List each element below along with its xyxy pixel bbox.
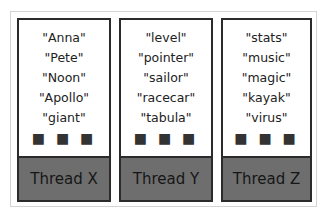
thread-x-panel: "Anna" "Pete" "Noon" "Apollo" "giant" ■ … <box>17 18 111 202</box>
list-item: "kayak" <box>242 88 290 108</box>
ellipsis: ■ ■ ■ <box>32 130 96 146</box>
list-item: "level" <box>145 28 186 48</box>
list-item: "giant" <box>42 108 85 128</box>
thread-z-panel: "stats" "music" "magic" "kayak" "virus" … <box>221 18 312 202</box>
list-item: "pointer" <box>138 48 194 68</box>
list-item: "Pete" <box>45 48 84 68</box>
thread-y-panel: "level" "pointer" "sailor" "racecar" "ta… <box>119 18 213 202</box>
thread-label: Thread X <box>19 156 109 200</box>
word-list: "Anna" "Pete" "Noon" "Apollo" "giant" ■ … <box>19 20 109 160</box>
ellipsis: ■ ■ ■ <box>134 130 198 146</box>
thread-label: Thread Z <box>223 156 310 200</box>
list-item: "Anna" <box>42 28 86 48</box>
list-item: "virus" <box>246 108 288 128</box>
list-item: "Noon" <box>42 68 86 88</box>
thread-label: Thread Y <box>121 156 211 200</box>
word-list: "stats" "music" "magic" "kayak" "virus" … <box>223 20 310 160</box>
word-list: "level" "pointer" "sailor" "racecar" "ta… <box>121 20 211 160</box>
list-item: "stats" <box>246 28 288 48</box>
list-item: "racecar" <box>137 88 196 108</box>
list-item: "tabula" <box>140 108 191 128</box>
ellipsis: ■ ■ ■ <box>234 130 298 146</box>
list-item: "music" <box>242 48 290 68</box>
list-item: "magic" <box>242 68 292 88</box>
list-item: "sailor" <box>143 68 188 88</box>
list-item: "Apollo" <box>39 88 89 108</box>
